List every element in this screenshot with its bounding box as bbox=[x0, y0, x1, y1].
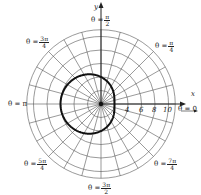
radial-grid-line bbox=[64, 104, 101, 168]
radial-grid-line bbox=[82, 32, 101, 104]
theta-prefix: θ = bbox=[91, 17, 103, 24]
fraction: 7π4 bbox=[167, 158, 177, 171]
radial-grid-line bbox=[82, 104, 101, 176]
angle-label-3pi-over-2: θ = 3π2 bbox=[88, 182, 111, 195]
radial-tick-8: 8 bbox=[152, 106, 156, 114]
angle-label-7pi-over-4: θ = 7π4 bbox=[154, 158, 177, 171]
fraction: 3π2 bbox=[101, 182, 111, 195]
radial-grid-line bbox=[64, 40, 101, 104]
theta-pi-text: θ = π bbox=[8, 101, 27, 108]
theta-prefix: θ = bbox=[24, 161, 36, 168]
radial-tick-6: 6 bbox=[139, 106, 143, 114]
fraction: 5π4 bbox=[37, 158, 47, 171]
angle-label-5pi-over-4: θ = 5π4 bbox=[24, 158, 47, 171]
theta-prefix: θ = bbox=[154, 161, 166, 168]
denominator: 4 bbox=[42, 43, 46, 49]
radial-tick-10: 10 bbox=[163, 106, 172, 114]
angle-label-pi: θ = π bbox=[8, 101, 27, 108]
radial-grid-line bbox=[37, 104, 101, 141]
theta-0-text: θ = 0 bbox=[178, 106, 197, 113]
theta-prefix: θ = bbox=[26, 39, 38, 46]
radial-grid-line bbox=[101, 40, 138, 104]
fraction: 3π4 bbox=[39, 36, 49, 49]
x-axis-label: x bbox=[191, 90, 195, 98]
radial-grid-line bbox=[101, 104, 138, 168]
angle-label-pi-over-2: θ = π2 bbox=[91, 14, 110, 27]
radial-grid-line bbox=[101, 104, 120, 176]
angle-label-3pi-over-4: θ = 3π4 bbox=[26, 36, 49, 49]
theta-prefix: θ = bbox=[88, 185, 100, 192]
y-axis-label: y bbox=[94, 3, 98, 11]
radial-grid-line bbox=[101, 51, 154, 104]
denominator: 4 bbox=[169, 47, 173, 53]
denominator: 2 bbox=[105, 21, 109, 27]
radial-grid-line bbox=[37, 67, 101, 104]
denominator: 4 bbox=[40, 165, 44, 171]
denominator: 4 bbox=[170, 165, 174, 171]
denominator: 2 bbox=[104, 189, 108, 195]
radial-grid-line bbox=[101, 32, 120, 104]
fraction: π2 bbox=[104, 14, 110, 27]
theta-prefix: θ = bbox=[155, 43, 167, 50]
fraction: π4 bbox=[168, 40, 174, 53]
y-axis-arrow-icon bbox=[99, 2, 104, 8]
radial-tick-4: 4 bbox=[125, 106, 129, 114]
angle-label-0: θ = 0 bbox=[178, 106, 197, 113]
angle-label-pi-over-4: θ = π4 bbox=[155, 40, 174, 53]
origin-dot bbox=[99, 102, 103, 106]
